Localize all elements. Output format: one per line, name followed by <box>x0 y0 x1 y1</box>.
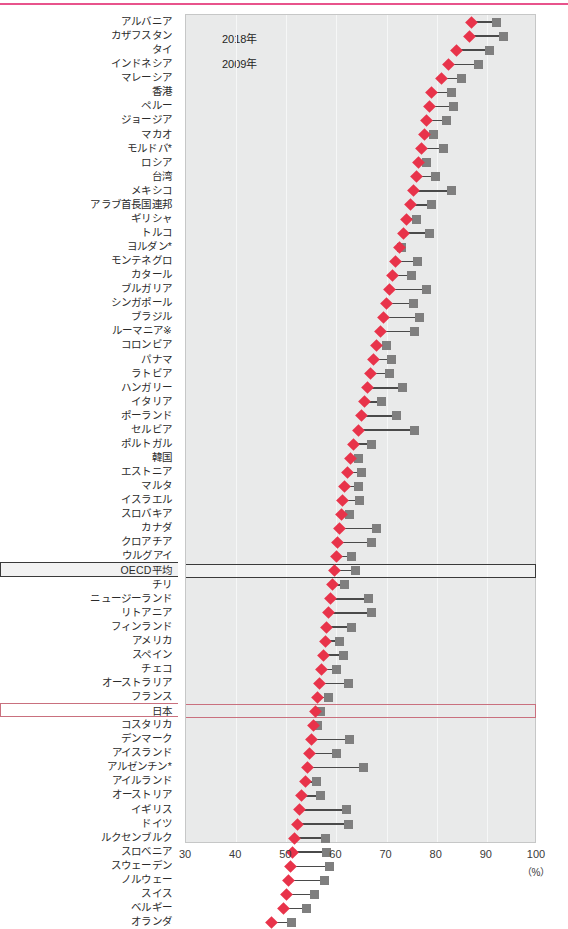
data-point-2018 <box>389 255 402 268</box>
data-point-2009 <box>447 186 456 195</box>
category-label: マレーシア <box>0 70 178 84</box>
category-label: マカオ <box>0 127 178 141</box>
category-label: セルビア <box>0 422 178 436</box>
category-label: モンテネグロ <box>0 253 178 267</box>
category-label: ブルガリア <box>0 281 178 295</box>
data-point-2009 <box>377 397 386 406</box>
data-point-2009 <box>344 820 353 829</box>
category-label: ジョージア <box>0 112 178 126</box>
value-axis: 30405060708090100（%） <box>0 846 568 886</box>
data-point-2009 <box>316 791 325 800</box>
category-label: フィンランド <box>0 619 178 633</box>
connector-line <box>299 809 346 810</box>
category-label: ドイツ <box>0 816 178 830</box>
data-point-2009 <box>344 679 353 688</box>
x-tick-label: 70 <box>379 848 391 860</box>
category-label: チリ <box>0 577 178 591</box>
data-point-2009 <box>409 299 418 308</box>
category-label: イギリス <box>0 802 178 816</box>
data-point-2009 <box>412 215 421 224</box>
x-tick-label: 90 <box>480 848 492 860</box>
data-point-2018 <box>313 677 326 690</box>
data-point-2018 <box>361 381 374 394</box>
data-point-2018 <box>347 438 360 451</box>
data-point-2018 <box>299 775 312 788</box>
data-point-2009 <box>392 411 401 420</box>
category-label: ポーランド <box>0 408 178 422</box>
category-label: コロンビア <box>0 337 178 351</box>
category-label: ルーマニア※ <box>0 323 178 337</box>
category-label: イタリア <box>0 394 178 408</box>
data-point-2018 <box>324 593 337 606</box>
data-point-2018 <box>305 733 318 746</box>
data-point-2018 <box>293 804 306 817</box>
category-label: カザフスタン <box>0 28 178 42</box>
data-point-2018 <box>265 916 278 929</box>
category-label: パナマ <box>0 352 178 366</box>
data-point-2018 <box>415 142 428 155</box>
data-point-2018 <box>374 325 387 338</box>
data-point-2018 <box>317 649 330 662</box>
data-point-2009 <box>347 623 356 632</box>
data-point-2009 <box>340 580 349 589</box>
data-point-2009 <box>385 369 394 378</box>
x-tick-label: 30 <box>179 848 191 860</box>
data-point-2009 <box>422 285 431 294</box>
data-point-2018 <box>315 663 328 676</box>
data-point-2018 <box>386 269 399 282</box>
data-point-2018 <box>277 902 290 915</box>
category-label: スロバキア <box>0 506 178 520</box>
data-point-2009 <box>302 904 311 913</box>
data-point-2009 <box>359 763 368 772</box>
category-label: アルバニア <box>0 14 178 28</box>
data-point-2009 <box>287 918 296 927</box>
category-label: ペルー <box>0 98 178 112</box>
data-point-2009 <box>425 229 434 238</box>
data-point-2009 <box>332 665 341 674</box>
data-point-2018 <box>288 832 301 845</box>
data-point-2009 <box>439 144 448 153</box>
data-point-2009 <box>312 777 321 786</box>
data-point-2018 <box>420 114 433 127</box>
category-label: メキシコ <box>0 183 178 197</box>
category-label: アメリカ <box>0 633 178 647</box>
data-point-2009 <box>367 538 376 547</box>
data-point-2018 <box>303 747 316 760</box>
data-point-2018 <box>397 227 410 240</box>
data-point-2018 <box>336 494 349 507</box>
data-point-2018 <box>330 550 343 563</box>
category-label: OECD平均 <box>0 562 178 576</box>
connector-line <box>297 823 348 824</box>
category-label: ロシア <box>0 155 178 169</box>
plot-area: 2018年 2009年 <box>185 14 536 843</box>
japan-highlight-box <box>186 704 536 718</box>
axis-unit-label: （%） <box>522 864 551 879</box>
category-label: カナダ <box>0 520 178 534</box>
data-point-2009 <box>357 468 366 477</box>
category-label: アルゼンチン* <box>0 759 178 773</box>
category-label: ギリシャ <box>0 211 178 225</box>
category-label: トルコ <box>0 225 178 239</box>
data-point-2009 <box>431 172 440 181</box>
data-point-2009 <box>387 355 396 364</box>
data-point-2018 <box>301 761 314 774</box>
data-point-2009 <box>398 383 407 392</box>
data-point-2009 <box>324 693 333 702</box>
data-point-2018 <box>291 818 304 831</box>
category-label: フランス <box>0 689 178 703</box>
data-point-2018 <box>423 100 436 113</box>
category-label: ルクセンブルク <box>0 830 178 844</box>
data-point-2018 <box>355 410 368 423</box>
category-label: モルドバ* <box>0 141 178 155</box>
x-tick-label: 100 <box>527 848 545 860</box>
data-point-2009 <box>442 116 451 125</box>
data-point-2009 <box>485 46 494 55</box>
category-label: マルタ <box>0 478 178 492</box>
x-tick-label: 60 <box>329 848 341 860</box>
data-point-2018 <box>367 353 380 366</box>
data-point-2009 <box>367 608 376 617</box>
category-label: アイルランド <box>0 773 178 787</box>
data-point-2018 <box>410 170 423 183</box>
category-label: インドネシア <box>0 56 178 70</box>
